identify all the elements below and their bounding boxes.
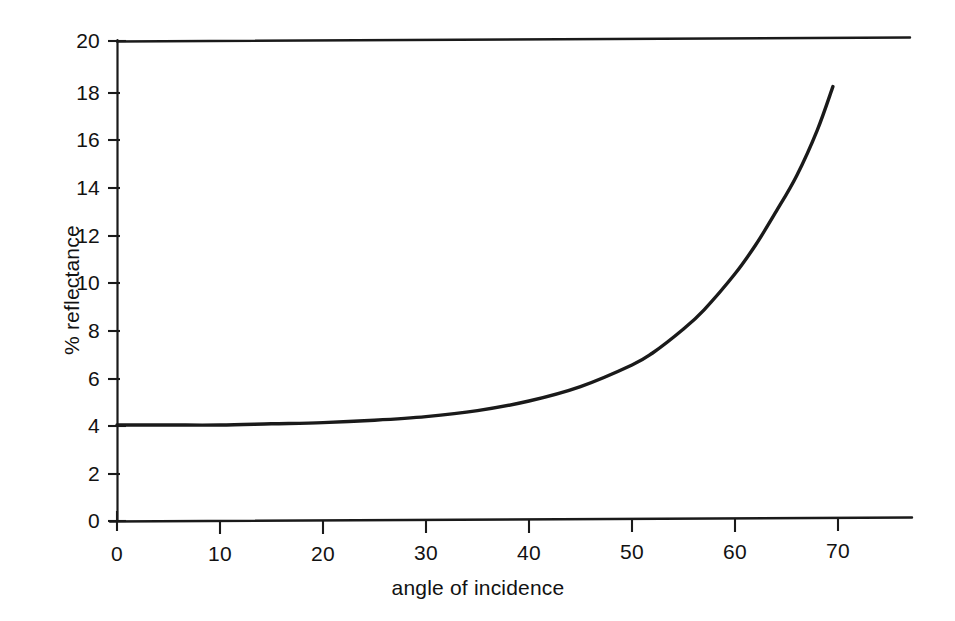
- x-axis-ticks: [117, 511, 838, 534]
- x-tick-label-40: 40: [517, 541, 541, 565]
- y-tick-label-0: 0: [62, 509, 100, 533]
- x-tick-label-20: 20: [311, 542, 335, 566]
- x-tick-label-0: 0: [111, 542, 123, 566]
- chart-figure: 0 2 4 6 8 10 12 14 16 18 20 0 10 20 30 4…: [0, 0, 955, 621]
- chart-plot-area: [0, 0, 955, 621]
- y-axis-label: % reflectance: [60, 225, 84, 355]
- x-tick-label-50: 50: [620, 540, 644, 564]
- y-tick-label-6: 6: [62, 367, 100, 391]
- x-axis-label: angle of incidence: [392, 576, 565, 600]
- y-tick-label-14: 14: [50, 176, 100, 200]
- top-axis-line: [117, 38, 910, 42]
- y-tick-label-2: 2: [62, 462, 100, 486]
- x-tick-label-70: 70: [826, 539, 850, 563]
- y-tick-label-16: 16: [50, 128, 100, 152]
- y-tick-label-4: 4: [62, 414, 100, 438]
- y-tick-label-20: 20: [50, 29, 100, 53]
- x-tick-label-10: 10: [208, 542, 232, 566]
- reflectance-curve: [117, 87, 833, 425]
- x-axis-line: [110, 518, 912, 522]
- x-tick-label-60: 60: [723, 540, 747, 564]
- y-tick-label-18: 18: [50, 81, 100, 105]
- x-tick-label-30: 30: [414, 541, 438, 565]
